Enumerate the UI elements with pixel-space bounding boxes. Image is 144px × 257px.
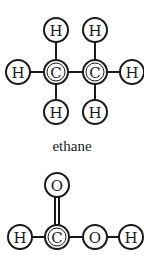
atom-symbol: H [88,22,101,40]
atoms-layer: HHHCCHHHOHCOH [6,18,144,249]
atom-h-h6: H [83,100,107,124]
atom-h-h5: H [44,100,68,124]
atom-symbol: O [89,229,101,247]
atom-symbol: C [51,229,62,247]
atom-h-h1: H [44,18,68,42]
atom-symbol: H [125,64,138,82]
molecule-diagram: HHHCCHHHOHCOH ethane [0,0,144,257]
atom-c-c3: C [45,225,69,249]
atom-c-c1: C [44,60,68,84]
atom-h-h4: H [120,60,144,84]
atom-h-h2: H [83,18,107,42]
atom-h-h7: H [8,225,32,249]
atom-o-o2: O [83,225,107,249]
atom-h-h3: H [6,60,30,84]
atom-symbol: H [49,22,62,40]
atom-symbol: C [50,64,61,82]
atom-symbol: C [89,64,100,82]
atom-symbol: H [13,229,26,247]
atom-c-c2: C [83,60,107,84]
atom-symbol: H [11,64,24,82]
ethane-caption: ethane [52,138,91,154]
atom-symbol: O [51,177,63,195]
atom-symbol: H [124,229,137,247]
atom-o-o1: O [45,173,69,197]
atom-h-h8: H [119,225,143,249]
atom-symbol: H [49,104,62,122]
atom-symbol: H [88,104,101,122]
